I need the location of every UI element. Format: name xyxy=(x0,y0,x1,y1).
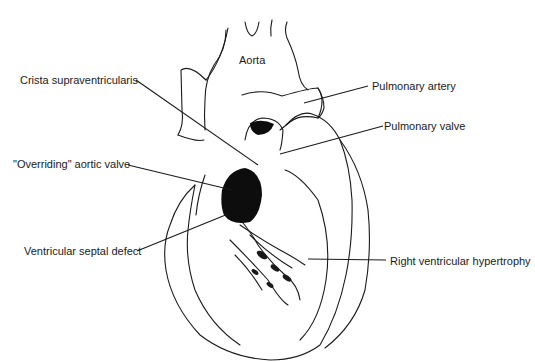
label-overriding-aortic-valve: "Overriding" aortic valve xyxy=(13,158,130,170)
leader-pulmonary-valve xyxy=(280,126,383,154)
leader-vsd xyxy=(137,214,228,251)
label-pulmonary-artery: Pulmonary artery xyxy=(372,80,456,92)
leader-overriding-valve xyxy=(128,165,232,190)
label-aorta: Aorta xyxy=(239,54,265,66)
leader-rvh xyxy=(308,259,386,260)
leader-crista xyxy=(136,80,258,165)
label-right-ventricular-hypertrophy: Right ventricular hypertrophy xyxy=(390,255,531,267)
pulmonary-valve-dark-region xyxy=(250,121,274,135)
label-pulmonary-valve: Pulmonary valve xyxy=(384,120,465,132)
heart-illustration xyxy=(0,0,535,362)
heart-diagram: Aorta Crista supraventricularis Pulmonar… xyxy=(0,0,535,362)
label-ventricular-septal-defect: Ventricular septal defect xyxy=(24,245,141,257)
label-crista-supraventricularis: Crista supraventricularis xyxy=(20,74,138,86)
